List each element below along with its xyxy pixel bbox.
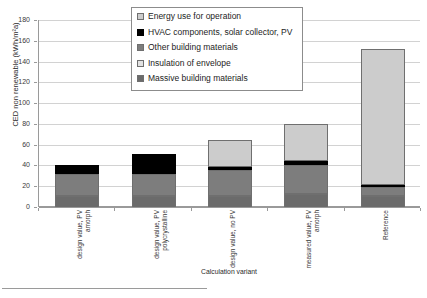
legend-label: HVAC components, solar collector, PV: [148, 28, 292, 38]
x-tick-mark: [114, 208, 115, 211]
y-tick-mark: [34, 82, 37, 83]
y-tick-mark: [34, 41, 37, 42]
bar-segment: [55, 165, 99, 173]
x-tick-mark: [344, 208, 345, 211]
stacked-bar[interactable]: [361, 49, 405, 206]
y-tick-label: 120: [18, 78, 30, 86]
bar-segment: [132, 196, 176, 207]
y-tick-mark: [34, 207, 37, 208]
legend-item[interactable]: HVAC components, solar collector, PV: [137, 28, 297, 38]
bar-segment: [208, 170, 252, 196]
x-tick-mark: [267, 208, 268, 211]
bar-segment: [284, 124, 328, 161]
legend-item[interactable]: Energy use for operation: [137, 12, 297, 22]
bar-segment: [284, 194, 328, 207]
y-tick-mark: [34, 145, 37, 146]
chart-legend: Energy use for operationHVAC components,…: [131, 7, 303, 91]
y-tick-label: 20: [22, 182, 30, 190]
x-tick-mark: [191, 208, 192, 211]
legend-swatch-icon: [137, 60, 144, 67]
y-tick-mark: [34, 103, 37, 104]
stacked-bar[interactable]: [55, 165, 99, 206]
bar-segment: [284, 165, 328, 194]
y-axis-title: CED non renewable (kWh/m²a): [11, 0, 20, 150]
bar-segment: [361, 49, 405, 185]
legend-label: Insulation of envelope: [148, 59, 231, 69]
x-axis-title: Calculation variant: [38, 268, 420, 275]
y-tick-mark: [34, 62, 37, 63]
y-tick-label: 180: [18, 16, 30, 24]
y-tick-mark: [34, 124, 37, 125]
legend-swatch-icon: [137, 13, 144, 20]
legend-item[interactable]: Other building materials: [137, 43, 297, 53]
stacked-bar[interactable]: [132, 154, 176, 206]
y-tick-label: 80: [22, 120, 30, 128]
bar-group: [39, 20, 115, 206]
stacked-bar[interactable]: [284, 124, 328, 206]
legend-item[interactable]: Insulation of envelope: [137, 59, 297, 69]
y-tick-label: 160: [18, 37, 30, 45]
bar-segment: [361, 196, 405, 207]
x-tick-mark: [38, 208, 39, 211]
legend-swatch-icon: [137, 29, 144, 36]
footer-divider: [2, 288, 207, 289]
bar-segment: [208, 140, 252, 166]
bar-segment: [132, 154, 176, 174]
chart-figure: 180160140120100806040200 CED non renewab…: [0, 0, 427, 298]
bar-segment: [208, 196, 252, 207]
y-tick-label: 60: [22, 141, 30, 149]
y-tick-mark: [34, 20, 37, 21]
legend-label: Massive building materials: [148, 74, 248, 84]
bar-group: [345, 20, 421, 206]
legend-swatch-icon: [137, 75, 144, 82]
legend-item[interactable]: Massive building materials: [137, 74, 297, 84]
y-tick-mark: [34, 165, 37, 166]
bar-segment: [132, 174, 176, 196]
legend-swatch-icon: [137, 44, 144, 51]
bar-segment: [55, 196, 99, 207]
x-tick-mark: [420, 208, 421, 211]
y-tick-label: 0: [26, 203, 30, 211]
y-tick-mark: [34, 186, 37, 187]
legend-label: Other building materials: [148, 43, 238, 53]
stacked-bar[interactable]: [208, 140, 252, 206]
bar-segment: [55, 174, 99, 196]
legend-label: Energy use for operation: [148, 12, 241, 22]
y-tick-label: 100: [18, 99, 30, 107]
y-tick-label: 40: [22, 161, 30, 169]
y-tick-label: 140: [18, 58, 30, 66]
